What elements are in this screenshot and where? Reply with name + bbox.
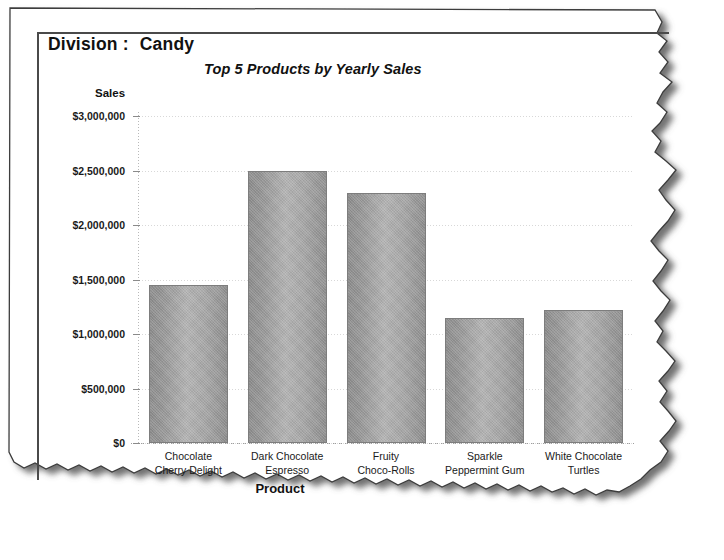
y-axis-tick [133,443,140,444]
y-axis-tick-label: $2,500,000 [0,165,125,177]
chart-title: Top 5 Products by Yearly Sales [204,61,422,77]
x-axis-tick-label: Chocolate Cherry Delight [139,449,238,477]
gridline [139,171,633,172]
bar[interactable] [347,193,426,443]
plot-area [139,116,633,443]
division-label: Division : [48,34,129,54]
division-header: Division :Candy [48,34,194,55]
bar[interactable] [445,318,524,443]
y-axis-tick [133,116,140,117]
bar[interactable] [544,310,623,443]
y-axis-tick-label: $0 [0,437,125,449]
x-axis-tick-label: White Chocolate Turtles [534,449,633,477]
gridline [139,116,633,117]
x-axis-tick-label: Sparkle Peppermint Gum [435,449,534,477]
x-axis-title: Product [0,481,560,496]
y-axis-tick-label: $500,000 [0,383,125,395]
x-axis-tick-label: Dark Chocolate Espresso [238,449,337,477]
x-axis-tick-label: Fruity Choco-Rolls [337,449,436,477]
y-axis-tick [133,171,140,172]
y-axis-tick [133,225,140,226]
y-axis-tick [133,334,140,335]
bar[interactable] [248,171,327,444]
y-axis-tick-label: $1,000,000 [0,328,125,340]
y-axis-tick [133,389,140,390]
report-frame-left-border [37,32,39,480]
y-axis-tick [133,280,140,281]
gridline [139,443,633,444]
y-axis-title: Sales [95,87,125,99]
y-axis-tick-label: $1,500,000 [0,274,125,286]
bar[interactable] [149,285,228,443]
y-axis-tick-label: $2,000,000 [0,219,125,231]
y-axis-tick-label: $3,000,000 [0,110,125,122]
division-value: Candy [140,34,194,54]
